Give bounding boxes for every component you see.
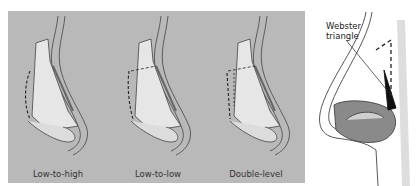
webster-triangle-label: Webster triangle xyxy=(326,21,361,41)
webster-triangle-illustration: Webster triangle xyxy=(306,10,418,186)
label-line-2: triangle xyxy=(326,31,361,41)
label-line-1: Webster xyxy=(326,21,361,31)
nose-low-to-high xyxy=(26,16,88,155)
caption-low-to-high: Low-to-high xyxy=(8,169,108,179)
caption-low-to-low: Low-to-low xyxy=(108,169,208,179)
osteotomy-panel: Low-to-high Low-to-low Double-level xyxy=(8,11,305,183)
nose-illustrations xyxy=(8,11,305,183)
caption-double-level: Double-level xyxy=(206,169,306,179)
nose-double-level xyxy=(227,16,289,155)
nose-low-to-low xyxy=(128,16,190,155)
